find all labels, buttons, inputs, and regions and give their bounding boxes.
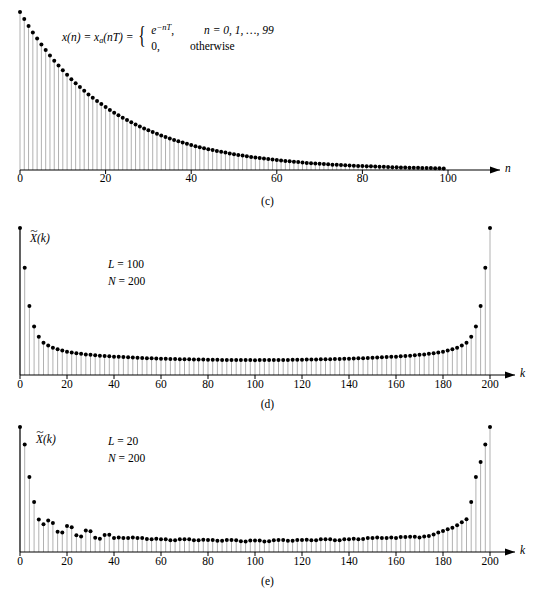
stem-marker [375, 536, 379, 540]
x-tick-label: 200 [481, 378, 498, 390]
stem-marker [356, 537, 360, 541]
x-tick-label: 60 [155, 555, 167, 567]
stem-marker [18, 10, 22, 14]
figure-container: x(n) = xa(nT) = { e−nT,n = 0, 1, …, 99 0… [0, 0, 535, 592]
stem-marker [32, 500, 36, 504]
stem-marker [60, 531, 64, 535]
stem-marker [107, 354, 111, 358]
stem-marker [333, 538, 337, 542]
stem-marker [31, 30, 35, 34]
stem-marker [136, 356, 140, 360]
stem-marker [373, 165, 377, 169]
panel-c-svg [0, 0, 535, 190]
stem-marker [253, 539, 257, 543]
stem-marker [427, 534, 431, 538]
stem-marker [380, 355, 384, 359]
stem-marker [211, 538, 215, 542]
stem-marker [286, 358, 290, 362]
panel-c-markers [18, 10, 446, 170]
stem-marker [126, 536, 130, 540]
stem-marker [339, 163, 343, 167]
stem-marker [258, 358, 262, 362]
x-tick-label: 40 [108, 378, 120, 390]
stem-marker [371, 536, 375, 540]
stem-marker [35, 37, 39, 41]
stem-marker [89, 353, 93, 357]
stem-marker [150, 537, 154, 541]
stem-marker [145, 537, 149, 541]
stem-marker [436, 351, 440, 355]
stem-marker [333, 357, 337, 361]
stem-marker [474, 324, 478, 328]
stem-marker [338, 538, 342, 542]
stem-marker [295, 538, 299, 542]
stem-marker [70, 351, 74, 355]
stem-marker [22, 17, 26, 21]
stem-marker [74, 533, 78, 537]
stem-marker [258, 539, 262, 543]
stem-marker [206, 538, 210, 542]
stem-marker [330, 163, 334, 167]
stem-marker [201, 538, 205, 542]
stem-marker [215, 358, 219, 362]
x-tick-label: 120 [293, 378, 310, 390]
stem-marker [272, 538, 276, 542]
stem-marker [189, 143, 193, 147]
panel-c-x-axis-arrow [490, 167, 500, 174]
stem-marker [262, 539, 266, 543]
stem-marker [65, 73, 69, 77]
stem-marker [342, 357, 346, 361]
stem-marker [305, 161, 309, 165]
stem-marker [385, 536, 389, 540]
panel-c-caption: (c) [0, 195, 535, 207]
stem-marker [89, 529, 93, 533]
stem-marker [378, 165, 382, 169]
x-tick-label: 60 [271, 172, 283, 184]
stem-marker [108, 108, 112, 112]
stem-marker [305, 358, 309, 362]
stem-marker [386, 165, 390, 169]
stem-marker [181, 141, 185, 145]
stem-marker [446, 349, 450, 353]
x-tick-label: 200 [481, 555, 498, 567]
stem-marker [197, 538, 201, 542]
panel-d-markers [18, 226, 492, 362]
stem-marker [173, 538, 177, 542]
stem-marker [258, 156, 262, 160]
stem-marker [206, 147, 210, 151]
stem-marker [95, 99, 99, 103]
stem-marker [418, 353, 422, 357]
x-tick-label: 100 [246, 378, 263, 390]
stem-marker [239, 539, 243, 543]
stem-marker [399, 165, 403, 169]
stem-marker [136, 536, 140, 540]
stem-marker [183, 537, 187, 541]
x-tick-label: 80 [357, 172, 369, 184]
x-tick-label: 0 [17, 378, 23, 390]
stem-marker [288, 159, 292, 163]
x-tick-label: 20 [100, 172, 112, 184]
stem-marker [46, 518, 50, 522]
stem-marker [356, 356, 360, 360]
panel-e-stems [20, 427, 490, 552]
x-tick-label: 40 [185, 172, 197, 184]
stem-marker [328, 357, 332, 361]
stem-marker [380, 536, 384, 540]
panel-d-plot [0, 220, 535, 392]
stem-marker [236, 153, 240, 157]
stem-marker [248, 358, 252, 362]
stem-marker [389, 536, 393, 540]
stem-marker [187, 357, 191, 361]
stem-marker [164, 537, 168, 541]
stem-marker [164, 357, 168, 361]
stem-marker [183, 357, 187, 361]
x-tick-label: 140 [340, 378, 357, 390]
stem-marker [48, 54, 52, 58]
stem-marker [403, 535, 407, 539]
panel-d: ~X(k) L = 100 N = 200 k 0204060801001201… [0, 220, 535, 415]
stem-marker [413, 353, 417, 357]
stem-marker [234, 538, 238, 542]
stem-marker [412, 166, 416, 170]
stem-marker [281, 358, 285, 362]
stem-marker [407, 166, 411, 170]
